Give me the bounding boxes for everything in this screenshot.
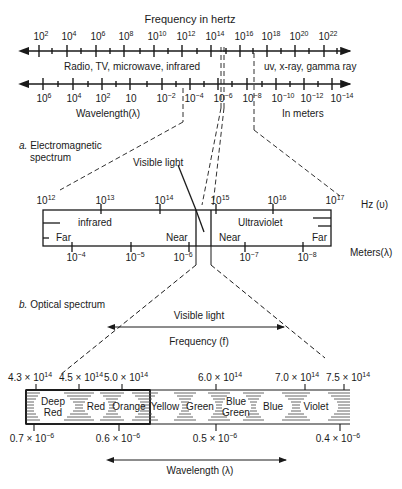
panel-a-caption: a. Electromagnetic (19, 141, 102, 151)
visible-light-label-b: Visible light (174, 311, 224, 321)
hz-tick-label: 1012 (37, 196, 56, 206)
opt-wave-tick-label: 0.5 × 10−6 (193, 434, 237, 444)
region-high-label: uv, x-ray, gamma ray (264, 62, 356, 72)
band-red: Red (87, 402, 105, 413)
opt-freq-tick-label: 7.5 × 1014 (326, 373, 370, 383)
wave-tick-label: 10−12 (301, 94, 324, 104)
hz-tick-label: 1016 (268, 196, 287, 206)
band-yellow: Yellow (151, 402, 180, 413)
m-tick-label: 10−7 (239, 253, 258, 263)
freq-tick-label: 1022 (319, 32, 338, 42)
hz-tick-label: 1013 (96, 196, 115, 206)
opt-wave-tick-label: 0.4 × 10−6 (316, 434, 360, 444)
region-low-label: Radio, TV, microwave, infrared (64, 62, 200, 72)
freq-tick-label: 1016 (235, 32, 254, 42)
band-blue: Blue (263, 402, 283, 413)
wave-tick-label: 10−8 (242, 94, 261, 104)
ir-near-label: Near (166, 233, 188, 243)
ir-far-label: Far (56, 233, 71, 243)
meters-unit-label: Meters(λ) (350, 248, 392, 258)
wave-tick-label: 10−10 (272, 94, 295, 104)
wave-tick-label: 10−6 (213, 94, 232, 104)
opt-freq-tick-label: 7.0 × 1014 (275, 373, 319, 383)
wave-tick-label: 10−2 (156, 94, 175, 104)
opt-freq-tick-label: 4.5 × 1014 (59, 373, 103, 383)
band-deep-red: Deep Red (38, 397, 68, 418)
opt-wave-tick-label: 0.7 × 10−6 (10, 434, 54, 444)
ultraviolet-label: Ultraviolet (238, 218, 282, 228)
freq-tick-label: 104 (61, 32, 76, 42)
m-tick-label: 10−6 (173, 253, 192, 263)
band-blue-green: Blue Green (221, 397, 251, 418)
freq-tick-label: 102 (33, 32, 48, 42)
infrared-label: infrared (78, 218, 112, 228)
opt-freq-tick-label: 4.3 × 1014 (8, 373, 52, 383)
wave-tick-label: 102 (95, 94, 110, 104)
wave-tick-label: 10−14 (331, 94, 354, 104)
opt-freq-tick-label: 6.0 × 1014 (198, 373, 242, 383)
frequency-label-b: Frequency (f) (169, 337, 228, 347)
hz-tick-label: 1015 (211, 196, 230, 206)
opt-freq-tick-label: 5.0 × 1014 (104, 373, 148, 383)
freq-tick-label: 108 (118, 32, 133, 42)
freq-tick-label: 1014 (206, 32, 225, 42)
panel-b-caption: b. Optical spectrum (19, 300, 105, 310)
wavelength-label-b: Wavelength (λ) (167, 466, 234, 476)
band-orange: Orange (112, 402, 145, 413)
band-violet: Violet (304, 402, 329, 413)
hz-tick-label: 1017 (326, 196, 345, 206)
wave-tick-label: 10 (125, 94, 136, 104)
frequency-axis-title: Frequency in hertz (144, 14, 235, 25)
freq-tick-label: 1010 (148, 32, 167, 42)
m-tick-label: 10−8 (297, 253, 316, 263)
freq-tick-label: 106 (90, 32, 105, 42)
freq-tick-label: 1018 (262, 32, 281, 42)
band-green: Green (186, 402, 214, 413)
visible-light-label-a: Visible light (133, 158, 183, 168)
hz-unit-label: Hz (υ) (361, 200, 388, 210)
m-tick-label: 10−4 (66, 253, 85, 263)
hz-tick-label: 1014 (155, 196, 174, 206)
wavelength-axis-title: Wavelength(λ) (76, 109, 140, 119)
wave-tick-label: 106 (36, 94, 51, 104)
panel-a-caption-line2: spectrum (30, 153, 71, 163)
uv-near-label: Near (219, 233, 241, 243)
uv-far-label: Far (312, 233, 327, 243)
m-tick-label: 10−5 (125, 253, 144, 263)
opt-wave-tick-label: 0.6 × 10−6 (96, 434, 140, 444)
freq-tick-label: 1012 (177, 32, 196, 42)
wavelength-units-label: In meters (282, 109, 324, 119)
wave-tick-label: 10−4 (184, 94, 203, 104)
freq-tick-label: 1020 (290, 32, 309, 42)
wave-tick-label: 104 (66, 94, 81, 104)
